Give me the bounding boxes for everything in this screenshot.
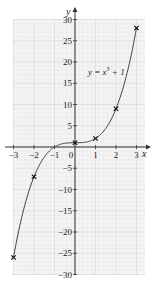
- svg-text:15: 15: [63, 78, 73, 88]
- svg-text:−10: −10: [58, 185, 73, 195]
- svg-text:1: 1: [93, 150, 98, 160]
- x-axis-label: x: [141, 148, 147, 159]
- cubic-graph: −3−2−1012330252015105−5−10−15−20−25−30 y…: [0, 0, 153, 281]
- svg-text:10: 10: [63, 100, 73, 110]
- svg-text:−25: −25: [58, 248, 73, 258]
- svg-text:−20: −20: [58, 227, 73, 237]
- y-axis-label: y: [65, 6, 71, 17]
- svg-text:3: 3: [134, 150, 139, 160]
- svg-text:−15: −15: [58, 206, 73, 216]
- svg-text:−3: −3: [9, 150, 19, 160]
- svg-text:5: 5: [68, 121, 73, 131]
- svg-text:2: 2: [114, 150, 119, 160]
- function-label-base: y = x: [87, 67, 107, 77]
- function-label-tail: + 1: [110, 67, 125, 77]
- svg-text:−2: −2: [29, 150, 39, 160]
- svg-text:−30: −30: [58, 270, 73, 280]
- svg-text:−1: −1: [50, 150, 60, 160]
- svg-text:0: 0: [69, 150, 74, 160]
- function-label: y = x3 + 1: [87, 66, 125, 77]
- svg-text:25: 25: [63, 36, 73, 46]
- svg-text:−5: −5: [62, 163, 72, 173]
- svg-text:20: 20: [63, 57, 73, 67]
